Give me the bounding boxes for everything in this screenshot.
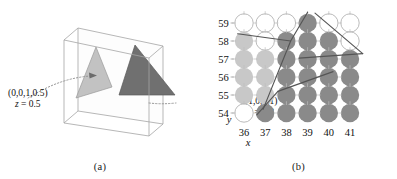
y-tick-label: 55 [218,90,229,101]
grid-circle-dark [277,104,295,122]
panel-b-canvas: 363738394041 595857565554 x y [200,0,397,179]
label-light-triangle: (0,0,1,0.5) z = 0.5 [8,88,48,110]
label-light-z-value: = 0.5 [19,99,41,109]
y-tick-label: 59 [218,18,229,29]
panel-a-3d-view: (0,0,1,0.5) z = 0.5 (a) [0,0,200,179]
x-axis-ticks: 363738394041 [239,127,356,138]
grid-cell [320,104,338,122]
grid-cell [298,104,316,122]
x-tick-label: 39 [302,127,313,138]
grid-cell [235,104,253,122]
slab-edge-br [149,124,163,136]
slab-edge-tl [64,28,78,40]
grid-circle-dark [320,104,338,122]
x-tick-label: 38 [281,127,292,138]
grid-circle-dark [341,104,359,122]
x-axis-label: x [245,137,251,148]
grid-cell [277,104,295,122]
x-tick-label: 37 [260,127,271,138]
y-axis-ticks: 595857565554 [218,18,234,119]
y-tick-label: 58 [218,36,229,47]
label-light-depth: z = 0.5 [8,99,48,110]
x-tick-label: 41 [345,127,356,138]
grid-cell [341,104,359,122]
y-axis-label: y [226,114,232,125]
grid-circle-dark [298,104,316,122]
caption-b: (b) [200,161,397,172]
y-tick-label: 56 [218,72,229,83]
grid-circle-empty [235,104,253,122]
y-tick-label: 57 [218,54,229,65]
slab-edge-bl [64,111,78,123]
x-tick-label: 40 [324,127,335,138]
circle-grid [232,11,359,122]
panel-b-raster-grid: 363738394041 595857565554 x y (b) [200,0,397,179]
slab-wireframe [64,28,175,136]
caption-a: (a) [0,161,200,172]
label-light-color-code: (0,0,1,0.5) [8,88,48,98]
figure-container: (0,0,1,0.5) z = 0.5 (a) (1,0,0,1) z = 0.… [0,0,397,179]
